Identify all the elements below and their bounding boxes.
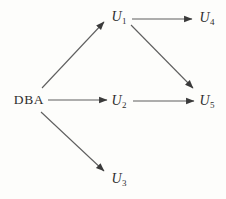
node-u5-label: U [199, 93, 209, 108]
node-u1: U1 [111, 10, 126, 24]
node-u4: U4 [199, 11, 214, 25]
edge-u1-u5 [131, 25, 193, 88]
edge-dba-u1 [42, 22, 104, 88]
node-u2-subscript: 2 [122, 100, 127, 110]
node-u5-subscript: 5 [210, 100, 215, 110]
diagram-canvas: DBA U1 U2 U3 U4 U5 [0, 0, 226, 199]
node-u3-subscript: 3 [122, 178, 127, 188]
edge-dba-u3 [41, 112, 104, 171]
node-u4-label: U [199, 10, 209, 25]
node-u4-subscript: 4 [210, 17, 215, 27]
node-u3-label: U [111, 171, 121, 186]
node-dba-label: DBA [14, 92, 44, 107]
node-u3: U3 [111, 172, 126, 186]
node-u2: U2 [111, 94, 126, 108]
node-u1-subscript: 1 [122, 16, 127, 26]
node-dba: DBA [14, 93, 44, 107]
node-u1-label: U [111, 9, 121, 24]
node-u5: U5 [199, 94, 214, 108]
node-u2-label: U [111, 93, 121, 108]
